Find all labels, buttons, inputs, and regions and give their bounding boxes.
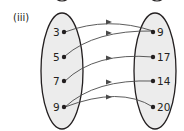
previous-diagram-left-ellipse [53,0,71,1]
previous-diagram-right-ellipse [148,0,166,1]
range-point-9 [151,30,155,34]
range-value: 14 [157,76,170,87]
range-point-20 [151,105,155,109]
arrowhead-icon [106,56,112,61]
domain-point-3 [62,30,66,34]
domain-value: 3 [53,27,60,38]
range-value: 9 [157,27,164,38]
domain-point-7 [62,79,66,83]
arrowhead-icon [106,95,112,100]
domain-point-9 [62,105,66,109]
domain-value: 5 [53,52,60,63]
domain-value: 7 [53,76,60,87]
domain-point-5 [62,55,66,59]
part-label: (iii) [13,13,29,23]
range-value: 20 [157,102,170,113]
domain-value: 9 [53,102,60,113]
domain-ellipse [41,13,83,129]
mapping-diagram: (iii) 3 5 7 9 9 17 14 20 [0,0,184,131]
range-point-17 [151,55,155,59]
range-value: 17 [157,52,170,63]
range-point-14 [151,79,155,83]
